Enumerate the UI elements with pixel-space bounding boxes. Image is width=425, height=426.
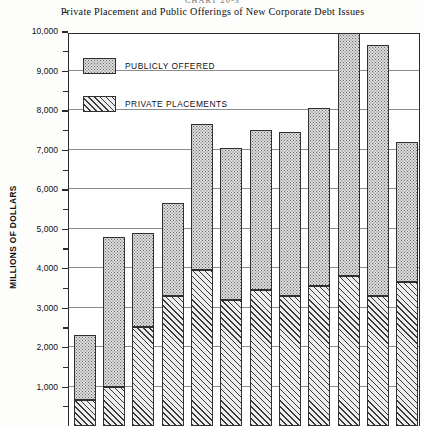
bar-segment-publicly-offered [162, 203, 184, 296]
bar [132, 233, 154, 426]
y-tick-minor [63, 170, 68, 171]
y-tick-major [62, 150, 68, 151]
bar-segment-publicly-offered [103, 237, 125, 387]
bar [308, 108, 330, 426]
bar-segment-private-placements [396, 282, 418, 426]
y-tick-major [62, 71, 68, 72]
bar [74, 335, 96, 426]
y-tick-major [62, 31, 68, 32]
y-tick-major [62, 268, 68, 269]
y-tick-major [62, 110, 68, 111]
y-tick-label: 5,000 [0, 224, 58, 234]
bar-segment-publicly-offered [220, 148, 242, 300]
y-tick-minor [63, 406, 68, 407]
bar-segment-private-placements [338, 276, 360, 426]
y-tick-minor [63, 91, 68, 92]
y-tick-minor [63, 51, 68, 52]
legend-entry-publicly-offered: PUBLICLY OFFERED [83, 58, 215, 74]
bar-segment-private-placements [162, 296, 184, 426]
y-tick-label: 6,000 [0, 184, 58, 194]
bar-segment-private-placements [308, 286, 330, 426]
y-tick-label: 7,000 [0, 145, 58, 155]
bar-segment-private-placements [74, 400, 96, 426]
bar [191, 124, 213, 426]
bar-segment-publicly-offered [338, 33, 360, 276]
y-tick-label: 10,000 [0, 26, 58, 36]
bar [162, 203, 184, 426]
y-tick-minor [63, 288, 68, 289]
y-tick-label: 9,000 [0, 66, 58, 76]
y-tick-label: 2,000 [0, 342, 58, 352]
y-tick-label: 4,000 [0, 263, 58, 273]
y-tick-major [62, 189, 68, 190]
plot-area: PUBLICLY OFFERED PRIVATE PLACEMENTS [68, 33, 420, 426]
bar [220, 148, 242, 426]
y-tick-minor [63, 367, 68, 368]
y-tick-minor [63, 130, 68, 131]
bar [396, 142, 418, 426]
bar-segment-publicly-offered [74, 335, 96, 400]
y-tick-label: 3,000 [0, 303, 58, 313]
chart-number-heading: CHART 20-3 [0, 0, 425, 4]
y-tick-label: 8,000 [0, 105, 58, 115]
y-tick-minor [63, 327, 68, 328]
y-tick-major [62, 387, 68, 388]
bar-segment-publicly-offered [191, 124, 213, 270]
chart-legend: PUBLICLY OFFERED PRIVATE PLACEMENTS [83, 58, 303, 128]
y-tick-major [62, 229, 68, 230]
legend-label-private-placements: PRIVATE PLACEMENTS [125, 99, 228, 109]
bar [103, 237, 125, 426]
y-tick-minor [63, 12, 68, 13]
bar [279, 132, 301, 426]
bar-segment-private-placements [132, 327, 154, 426]
bar [338, 33, 360, 426]
bar-segment-publicly-offered [396, 142, 418, 282]
bar-segment-private-placements [191, 270, 213, 426]
bar-segment-publicly-offered [367, 45, 389, 296]
bar-segment-private-placements [103, 387, 125, 426]
y-tick-minor [63, 209, 68, 210]
bar [367, 45, 389, 426]
y-tick-major [62, 347, 68, 348]
bar-segment-publicly-offered [132, 233, 154, 328]
y-tick-label: 1,000 [0, 382, 58, 392]
bar-segment-private-placements [367, 296, 389, 426]
bar-segment-private-placements [220, 300, 242, 426]
bar-segment-publicly-offered [250, 130, 272, 290]
legend-label-publicly-offered: PUBLICLY OFFERED [125, 61, 215, 71]
bar [250, 130, 272, 426]
private-placements-swatch [83, 96, 116, 112]
legend-entry-private-placements: PRIVATE PLACEMENTS [83, 96, 228, 112]
bar-segment-private-placements [279, 296, 301, 426]
bar-segment-publicly-offered [279, 132, 301, 296]
y-tick-minor [63, 248, 68, 249]
y-tick-major [62, 308, 68, 309]
bar-segment-private-placements [250, 290, 272, 426]
bar-segment-publicly-offered [308, 108, 330, 286]
chart-figure: CHART 20-3 Private Placement and Public … [0, 0, 425, 426]
publicly-offered-swatch [83, 58, 116, 74]
